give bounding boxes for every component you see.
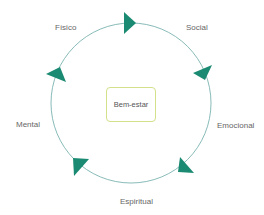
arrow-icon-bottom-left [73, 158, 89, 176]
arrow-icon-left-upper [46, 67, 66, 82]
node-label-fisico: Físico [55, 24, 76, 32]
center-label: Bem-estar [114, 100, 149, 109]
center-node: Bem-estar [106, 87, 156, 122]
node-label-emocional: Emocional [217, 122, 254, 130]
arrow-icon-top [124, 12, 136, 34]
arrow-icon-right-lower [178, 157, 194, 173]
node-label-mental: Mental [16, 121, 40, 129]
node-label-social: Social [186, 24, 208, 32]
node-label-espiritual: Espiritual [120, 198, 153, 206]
